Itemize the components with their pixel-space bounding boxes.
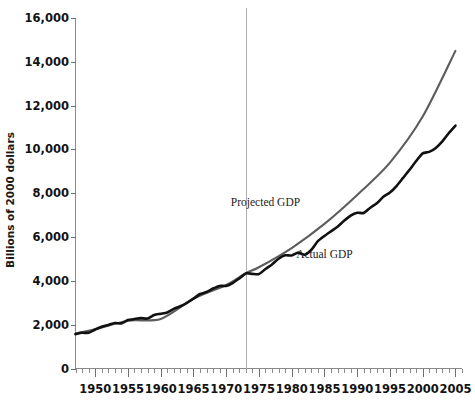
y-tick-label: 14,000: [25, 55, 69, 69]
y-tick-label: 8,000: [33, 186, 69, 200]
x-tick-label: 2000: [407, 382, 439, 396]
y-tick-label: 4,000: [33, 274, 69, 288]
x-tick-label: 1970: [210, 382, 242, 396]
y-tick-label: 6,000: [33, 230, 69, 244]
y-tick-label: 12,000: [25, 99, 69, 113]
chart-canvas: Billions of 2000 dollars 02,0004,0006,00…: [0, 0, 475, 405]
axes: [76, 18, 463, 369]
y-tick-label: 2,000: [33, 318, 69, 332]
x-tick-label: 1990: [341, 382, 373, 396]
x-tick-label: 1960: [145, 382, 177, 396]
y-tick-label: 16,000: [25, 11, 69, 25]
y-tick-label: 10,000: [25, 142, 69, 156]
y-axis-tick-labels: 02,0004,0006,0008,00010,00012,00014,0001…: [25, 11, 69, 376]
y-axis-ticks: [71, 19, 76, 370]
x-axis-tick-labels: 1950195519601965197019751980198519901995…: [79, 382, 471, 396]
x-tick-label: 1950: [79, 382, 111, 396]
x-tick-label: 1965: [177, 382, 209, 396]
actual-gdp-label: Actual GDP: [296, 248, 353, 260]
x-tick-label: 1995: [374, 382, 406, 396]
x-tick-label: 2005: [439, 382, 471, 396]
gdp-chart: Billions of 2000 dollars 02,0004,0006,00…: [0, 0, 475, 405]
x-axis-major-ticks: [96, 369, 456, 377]
x-axis-minor-ticks: [77, 369, 463, 373]
x-tick-label: 1955: [112, 382, 144, 396]
projected-gdp-line: [76, 51, 456, 334]
y-axis-title: Billions of 2000 dollars: [4, 132, 16, 268]
x-tick-label: 1985: [308, 382, 340, 396]
y-tick-label: 0: [61, 362, 69, 376]
actual-gdp-line: [76, 126, 456, 335]
projected-gdp-label: Projected GDP: [231, 196, 300, 209]
x-tick-label: 1980: [276, 382, 308, 396]
y-axis-title-text: Billions of 2000 dollars: [4, 132, 16, 268]
x-tick-label: 1975: [243, 382, 275, 396]
